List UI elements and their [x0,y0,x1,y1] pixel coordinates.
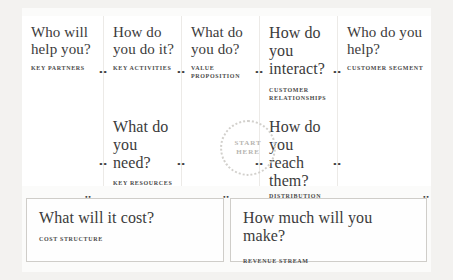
connector-arrow-left-resources: •• [97,161,108,168]
panel-question: How do you do it? [113,24,175,58]
panel-key-partners[interactable]: Who will help you? Key Partners [22,16,104,186]
connector-arrow-value-relationships: •• [253,69,264,76]
panel-key-resources[interactable]: What do you need? Key Resources [104,108,182,186]
start-here-line-1: Start [234,139,261,149]
business-model-canvas: Who will help you? Key Partners How do y… [22,8,431,272]
connector-arrow-activities-value: •• [175,69,186,76]
panel-question: How do you reach them? [269,118,331,190]
panel-label: Key Activities [113,64,175,72]
panel-label: Revenue Stream [243,257,414,265]
panel-label: Key Partners [31,64,97,72]
panel-label: Value Proposition [191,64,253,80]
panel-question: What do you do? [191,24,253,58]
panel-customer-segment[interactable]: Who do you help? Customer Segment [338,16,431,186]
panel-question: Who do you help? [347,24,425,58]
connector-arrow-start-channels: •• [253,161,264,168]
panel-question: Who will help you? [31,24,97,58]
connector-arrow-partners-activities: •• [97,69,108,76]
panel-label: Customer Relationships [269,86,331,102]
panel-question: What will it cost? [39,209,217,227]
panel-cost-structure[interactable]: What will it cost? Cost Structure [26,198,224,262]
panel-label: Key Resources [113,179,175,187]
panel-revenue-stream[interactable]: How much will you make? Revenue Stream [230,198,427,262]
connector-arrow-cost-revenue: •• [220,194,231,201]
start-here-marker: Start Here [220,120,276,176]
panel-question: What do you need? [113,118,175,172]
panel-question: How much will you make? [243,209,414,245]
panel-question: How do you interact? [269,24,331,78]
connector-arrow-resources-start: •• [175,161,186,168]
connector-arrow-channels-right: •• [331,161,342,168]
connector-arrow-revenue-right: •• [420,194,431,201]
connector-arrow-cost-left: •• [82,194,93,201]
panel-label: Cost Structure [39,235,217,243]
panel-label: Customer Segment [347,64,425,72]
start-here-line-2: Here [234,148,261,158]
connector-arrow-relationships-segment: •• [331,69,342,76]
